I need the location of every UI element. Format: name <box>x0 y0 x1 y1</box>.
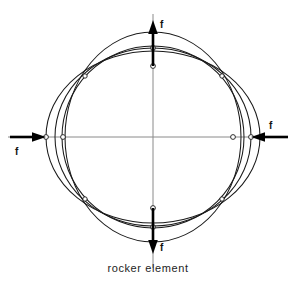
force-arrow-bottom <box>148 208 158 254</box>
force-top-arrowhead <box>148 20 158 34</box>
force-bottom-arrowhead <box>148 240 158 254</box>
node-diag-ne <box>220 74 224 78</box>
node-diag-nw <box>83 74 87 78</box>
node-diag-sw <box>83 197 87 201</box>
figure-caption: rocker element <box>0 262 296 274</box>
force-label-top: f <box>160 20 163 30</box>
node-diag-se <box>220 197 224 201</box>
force-arrow-top <box>148 20 158 66</box>
force-label-bottom: f <box>160 243 163 253</box>
node-right-inner <box>231 135 236 140</box>
force-right-arrowhead <box>251 132 265 142</box>
force-arrow-right <box>251 132 288 142</box>
diagram-canvas <box>0 0 296 292</box>
force-arrow-left <box>10 132 46 142</box>
node-left-inner <box>61 135 66 140</box>
axes-group <box>8 14 288 268</box>
force-left-arrowhead <box>32 132 46 142</box>
force-label-left: f <box>15 147 18 157</box>
rocker-element-figure: f f f f rocker element <box>0 0 296 292</box>
force-label-right: f <box>269 121 272 131</box>
